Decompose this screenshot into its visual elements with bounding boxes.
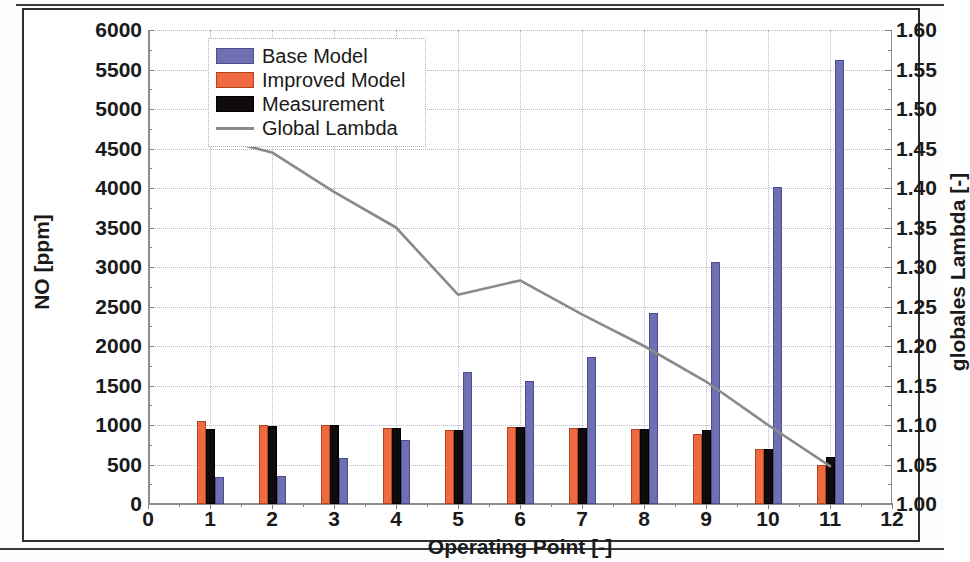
x-tick-label: 2 [266,508,278,529]
legend-row[interactable]: Improved Model [216,68,418,92]
y-tick-label: 0 [130,493,142,514]
y-tick-label: 4000 [95,177,142,198]
legend-row[interactable]: Global Lambda [216,116,418,140]
y-tick-label: 4500 [95,138,142,159]
legend-row[interactable]: Measurement [216,92,418,116]
y-tick-label: 3500 [95,217,142,238]
y-tick-label: 500 [107,454,142,475]
page-top-rule [16,4,944,6]
y-tick-label: 2500 [95,296,142,317]
legend-label: Improved Model [262,70,405,90]
x-tick-label: 5 [452,508,464,529]
y2-tick-label: 1.25 [896,296,937,317]
x-tick-label: 10 [756,508,779,529]
y2-tick-label: 1.50 [896,98,937,119]
x-tick-label: 12 [880,508,903,529]
x-tick-label: 6 [514,508,526,529]
y2-tick-label: 1.60 [896,19,937,40]
y2-tick-label: 1.40 [896,177,937,198]
x-tick-label: 11 [819,508,841,529]
y-axis-tick-labels: 0500100015002000250030003500400045005000… [54,30,142,504]
x-tick-label: 7 [576,508,588,529]
x-tick-label: 8 [638,508,650,529]
y-axis-title: NO [ppm] [30,192,54,332]
y2-tick-label: 1.30 [896,256,937,277]
legend-swatch-improved-icon [216,72,254,88]
x-tick-label: 0 [142,508,154,529]
y2-tick-label: 1.15 [896,375,937,396]
x-tick-label: 4 [390,508,402,529]
legend-row[interactable]: Base Model [216,44,418,68]
y2-tick-label: 1.45 [896,138,937,159]
chart-legend: Base ModelImproved ModelMeasurementGloba… [208,38,426,147]
y2-tick-label: 1.20 [896,335,937,356]
legend-swatch-base-icon [216,48,254,64]
y-tick-label: 1500 [95,375,142,396]
y2-tick-label: 1.10 [896,414,937,435]
x-tick-major [892,503,893,509]
y-tick-label: 5000 [95,98,142,119]
y-tick-label: 6000 [95,19,142,40]
y2-tick-label: 1.35 [896,217,937,238]
y-tick-label: 1000 [95,414,142,435]
plot-area: Base ModelImproved ModelMeasurementGloba… [148,30,892,504]
secondary-y-axis-tick-labels: 1.001.051.101.151.201.251.301.351.401.45… [896,30,966,504]
y-tick-label: 3000 [95,256,142,277]
x-axis-tick-labels: 0123456789101112 [148,508,892,540]
y2-tick-label: 1.05 [896,454,937,475]
legend-label: Global Lambda [262,118,398,138]
y2-tick-label: 1.55 [896,59,937,80]
legend-label: Measurement [262,94,384,114]
legend-swatch-measure-icon [216,96,254,112]
legend-swatch-line-icon [216,120,254,136]
chart-frame: NO [ppm] globales Lambda [-] Operating P… [22,8,920,542]
x-tick-label: 9 [700,508,712,529]
x-tick-label: 1 [204,508,216,529]
legend-label: Base Model [262,46,368,66]
y-tick-label: 5500 [95,59,142,80]
x-tick-label: 3 [328,508,340,529]
y-tick-label: 2000 [95,335,142,356]
